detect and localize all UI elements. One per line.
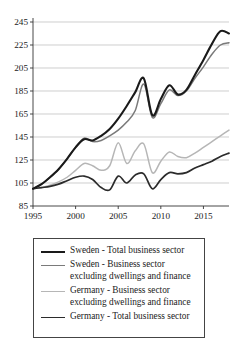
- legend-item-label: Sweden - Total business sector: [70, 245, 184, 256]
- legend-swatch-line-icon: [41, 251, 65, 253]
- series-line: [33, 31, 229, 189]
- legend-item: Germany - Business sector excluding dwel…: [41, 285, 198, 308]
- chart-plot-area: 8510512514516518520522524519952000200520…: [0, 0, 237, 232]
- y-tick-label: 145: [14, 132, 28, 142]
- y-tick-label: 225: [14, 40, 28, 50]
- legend-item-label: Sweden - Business sector excluding dwell…: [70, 259, 198, 282]
- x-tick-label: 2005: [109, 211, 128, 221]
- legend-swatch-line-icon: [41, 317, 65, 318]
- x-tick-label: 2000: [66, 211, 85, 221]
- legend-swatch-line-icon: [41, 265, 65, 266]
- x-tick-label: 2015: [194, 211, 213, 221]
- legend-item: Sweden - Total business sector: [41, 245, 198, 256]
- legend-item-label: Germany - Business sector excluding dwel…: [70, 285, 198, 308]
- y-tick-label: 205: [14, 63, 28, 73]
- y-tick-label: 85: [19, 201, 29, 211]
- y-tick-label: 125: [14, 155, 28, 165]
- y-tick-label: 105: [14, 178, 28, 188]
- x-tick-label: 1995: [24, 211, 43, 221]
- chart-legend: Sweden - Total business sector Sweden - …: [0, 236, 237, 346]
- legend-swatch-line-icon: [41, 291, 65, 292]
- y-tick-label: 245: [14, 17, 28, 27]
- y-tick-label: 185: [14, 86, 28, 96]
- y-tick-label: 165: [14, 109, 28, 119]
- legend-box: Sweden - Total business sector Sweden - …: [33, 238, 205, 338]
- x-tick-label: 2010: [152, 211, 171, 221]
- legend-item: Sweden - Business sector excluding dwell…: [41, 259, 198, 282]
- legend-item: Germany - Total business sector: [41, 311, 198, 322]
- legend-item-label: Germany - Total business sector: [70, 311, 190, 322]
- line-chart: 8510512514516518520522524519952000200520…: [0, 0, 237, 232]
